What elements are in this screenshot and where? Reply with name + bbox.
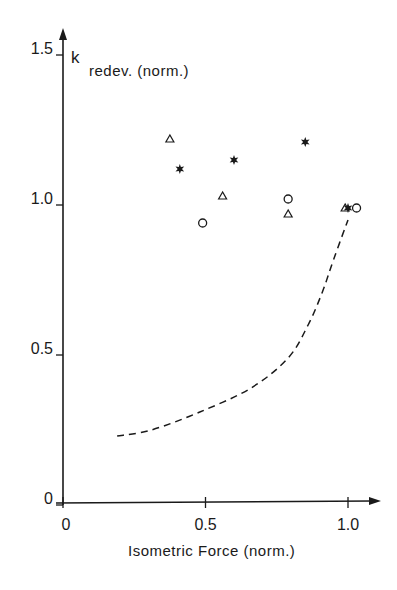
x-tick-label: 1.0 (337, 516, 359, 533)
y-tick-label: 1.0 (31, 190, 53, 207)
y-axis-label-sub: redev. (norm.) (89, 62, 189, 79)
star-marker-icon (301, 137, 310, 147)
x-axis-arrow-icon (369, 497, 381, 505)
dashed-curve (117, 220, 348, 436)
x-axis-line (56, 501, 372, 503)
x-tick-label: 0 (62, 516, 71, 533)
y-tick-label: 0 (44, 490, 53, 507)
triangle-marker-icon (284, 210, 292, 217)
triangle-marker-icon (166, 135, 174, 142)
axis-ticks: 00.51.000.51.01.5 (31, 40, 359, 533)
circle-marker-icon (199, 219, 207, 227)
y-axis-label-k: k (71, 48, 80, 67)
y-tick-label: 1.5 (31, 40, 53, 57)
y-axis-arrow-icon (59, 28, 67, 40)
star-marker-icon (176, 164, 185, 174)
scatter-chart: 00.51.000.51.01.5 k redev. (norm.) Isome… (0, 0, 397, 590)
star-marker-icon (230, 155, 239, 165)
x-axis-label: Isometric Force (norm.) (128, 542, 295, 559)
circle-marker-icon (353, 204, 361, 212)
x-tick-label: 0.5 (194, 516, 216, 533)
y-tick-label: 0.5 (31, 340, 53, 357)
circle-marker-icon (284, 195, 292, 203)
dashed-curve-path (117, 220, 348, 436)
axes (56, 28, 381, 505)
data-markers (166, 135, 361, 227)
triangle-marker-icon (219, 192, 227, 199)
